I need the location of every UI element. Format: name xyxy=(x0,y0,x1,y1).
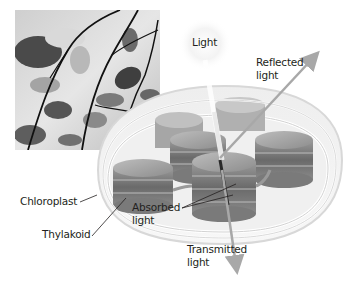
light-label: Light xyxy=(192,36,217,49)
reflected-label-line2: light xyxy=(256,69,304,82)
transmitted-label-line2: light xyxy=(187,256,247,269)
absorbed-label-line1: Absorbed xyxy=(132,201,180,214)
absorbed-light-label: Absorbed light xyxy=(132,201,180,227)
chloroplast-label: Chloroplast xyxy=(20,195,77,208)
thylakoid-label: Thylakoid xyxy=(42,228,91,241)
transmitted-label-line1: Transmitted xyxy=(187,243,247,256)
reflected-light-label: Reflected light xyxy=(256,56,304,82)
transmitted-light-label: Transmitted light xyxy=(187,243,247,269)
reflected-label-line1: Reflected xyxy=(256,56,304,69)
absorbed-label-line2: light xyxy=(132,214,180,227)
